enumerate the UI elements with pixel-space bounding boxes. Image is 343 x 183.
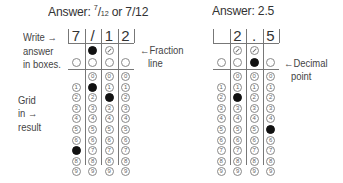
digit-bubble[interactable]: 0 (250, 72, 259, 81)
digit-bubble[interactable]: 4 (250, 114, 259, 123)
digit-bubble[interactable]: 9 (233, 167, 242, 176)
digit-bubble[interactable]: 8 (250, 157, 259, 166)
digit-bubble[interactable]: 3 (105, 104, 114, 113)
digit-bubble[interactable]: 2 (72, 93, 81, 102)
digit-bubble[interactable]: 0 (233, 72, 242, 81)
digit-bubble[interactable]: 5 (250, 125, 259, 134)
digit-bubble[interactable]: 4 (105, 114, 114, 123)
label-in: in → (18, 107, 37, 119)
slash-bubble[interactable] (250, 46, 259, 55)
answer-box[interactable]: 7 (68, 28, 84, 43)
answer-box[interactable] (213, 28, 229, 43)
digit-bubble[interactable]: 5 (72, 125, 81, 134)
digit-bubble[interactable]: 9 (105, 167, 114, 176)
digit-bubble[interactable]: 7 (266, 146, 275, 155)
answer-box[interactable]: / (85, 28, 101, 43)
digit-bubble[interactable]: 7 (105, 146, 114, 155)
digit-bubble[interactable]: 8 (105, 157, 114, 166)
digit-bubble[interactable]: 6 (72, 136, 81, 145)
digit-bubble[interactable]: 4 (88, 114, 97, 123)
digit-bubble[interactable]: 5 (233, 125, 242, 134)
digit-bubble[interactable]: 9 (88, 167, 97, 176)
digit-bubble[interactable]: 8 (88, 157, 97, 166)
answer-box[interactable]: 5 (263, 28, 279, 43)
digit-bubble[interactable]: 0 (88, 72, 97, 81)
digit-bubble[interactable]: 3 (233, 104, 242, 113)
digit-bubble[interactable]: 6 (266, 136, 275, 145)
digit-bubble[interactable]: 4 (266, 114, 275, 123)
digit-bubble[interactable]: 9 (217, 167, 226, 176)
digit-bubble[interactable]: 0 (121, 72, 130, 81)
digit-bubble[interactable]: 1 (105, 83, 114, 92)
digit-bubble[interactable]: 1 (266, 83, 275, 92)
filled-bubble[interactable] (250, 58, 259, 67)
decimal-bubble[interactable] (217, 58, 226, 67)
digit-bubble[interactable]: 4 (217, 114, 226, 123)
digit-bubble[interactable]: 7 (217, 146, 226, 155)
digit-bubble[interactable]: 9 (121, 167, 130, 176)
decimal-bubble[interactable] (105, 58, 114, 67)
digit-bubble[interactable]: 6 (250, 136, 259, 145)
digit-bubble[interactable]: 9 (72, 167, 81, 176)
digit-bubble[interactable]: 4 (121, 114, 130, 123)
answer-box[interactable]: 1 (101, 28, 117, 43)
digit-bubble[interactable]: 2 (250, 93, 259, 102)
digit-bubble[interactable]: 4 (233, 114, 242, 123)
digit-bubble[interactable]: 9 (266, 167, 275, 176)
decimal-bubble[interactable] (233, 58, 242, 67)
digit-bubble[interactable]: 6 (217, 136, 226, 145)
slash-bubble[interactable] (105, 46, 114, 55)
filled-bubble[interactable] (88, 46, 97, 55)
digit-bubble[interactable]: 7 (250, 146, 259, 155)
digit-bubble[interactable]: 1 (250, 83, 259, 92)
digit-bubble[interactable]: 2 (217, 93, 226, 102)
digit-bubble[interactable]: 1 (217, 83, 226, 92)
digit-bubble[interactable]: 3 (250, 104, 259, 113)
decimal-bubble[interactable] (72, 58, 81, 67)
digit-bubble[interactable]: 2 (266, 93, 275, 102)
digit-bubble[interactable]: 8 (217, 157, 226, 166)
digit-bubble[interactable]: 5 (88, 125, 97, 134)
digit-bubble[interactable]: 4 (72, 114, 81, 123)
slash-bubble[interactable] (233, 46, 242, 55)
decimal-bubble[interactable] (266, 58, 275, 67)
decimal-bubble[interactable] (121, 58, 130, 67)
digit-bubble[interactable]: 0 (105, 72, 114, 81)
digit-bubble[interactable]: 3 (217, 104, 226, 113)
answer-box[interactable]: 2 (230, 28, 246, 43)
digit-bubble[interactable]: 3 (266, 104, 275, 113)
filled-bubble[interactable] (88, 83, 97, 92)
digit-bubble[interactable]: 7 (121, 146, 130, 155)
digit-bubble[interactable]: 1 (72, 83, 81, 92)
digit-bubble[interactable]: 1 (233, 83, 242, 92)
digit-bubble[interactable]: 6 (105, 136, 114, 145)
digit-bubble[interactable]: 3 (88, 104, 97, 113)
column-divider (246, 43, 247, 165)
digit-bubble[interactable]: 6 (121, 136, 130, 145)
digit-bubble[interactable]: 6 (233, 136, 242, 145)
filled-bubble[interactable] (105, 93, 114, 102)
digit-bubble[interactable]: 3 (121, 104, 130, 113)
digit-bubble[interactable]: 2 (121, 93, 130, 102)
digit-bubble[interactable]: 5 (105, 125, 114, 134)
digit-bubble[interactable]: 7 (88, 146, 97, 155)
filled-bubble[interactable] (72, 146, 81, 155)
digit-bubble[interactable]: 7 (233, 146, 242, 155)
digit-bubble[interactable]: 8 (121, 157, 130, 166)
digit-bubble[interactable]: 2 (88, 93, 97, 102)
digit-bubble[interactable]: 0 (266, 72, 275, 81)
digit-bubble[interactable]: 9 (250, 167, 259, 176)
filled-bubble[interactable] (266, 125, 275, 134)
digit-bubble[interactable]: 6 (88, 136, 97, 145)
digit-bubble[interactable]: 5 (217, 125, 226, 134)
decimal-bubble[interactable] (88, 58, 97, 67)
digit-bubble[interactable]: 8 (233, 157, 242, 166)
digit-bubble[interactable]: 8 (72, 157, 81, 166)
digit-bubble[interactable]: 5 (121, 125, 130, 134)
filled-bubble[interactable] (233, 93, 242, 102)
digit-bubble[interactable]: 1 (121, 83, 130, 92)
answer-box[interactable]: . (246, 28, 262, 43)
digit-bubble[interactable]: 3 (72, 104, 81, 113)
answer-box[interactable]: 2 (118, 28, 134, 43)
digit-bubble[interactable]: 8 (266, 157, 275, 166)
